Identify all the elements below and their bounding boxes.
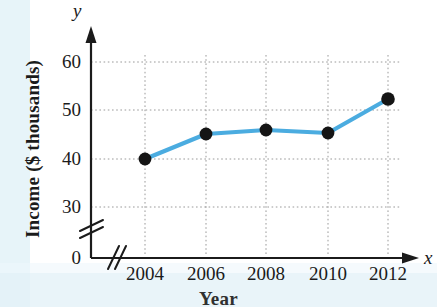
x-tick-label-2012: 2012 bbox=[357, 263, 419, 285]
data-point bbox=[260, 124, 273, 137]
data-point bbox=[200, 128, 213, 141]
gridlines-horizontal bbox=[91, 62, 400, 207]
x-tick-label-2004: 2004 bbox=[114, 263, 176, 285]
chart-figure: y x 60 50 40 30 0 2004 2006 2008 2010 20… bbox=[0, 0, 437, 307]
x-tick-label-2010: 2010 bbox=[297, 263, 359, 285]
data-point-markers bbox=[139, 92, 395, 165]
x-axis-variable-label: x bbox=[424, 247, 432, 269]
x-tick-label-2008: 2008 bbox=[235, 263, 297, 285]
y-axis-title: Income ($ thousands) bbox=[22, 44, 44, 254]
x-axis-title: Year bbox=[0, 288, 437, 307]
data-point bbox=[381, 92, 395, 106]
x-axis bbox=[91, 253, 419, 264]
data-point bbox=[322, 127, 335, 140]
y-axis-variable-label: y bbox=[73, 0, 81, 22]
x-tick-label-2006: 2006 bbox=[175, 263, 237, 285]
gridlines-vertical bbox=[145, 55, 388, 256]
data-point bbox=[139, 153, 152, 166]
